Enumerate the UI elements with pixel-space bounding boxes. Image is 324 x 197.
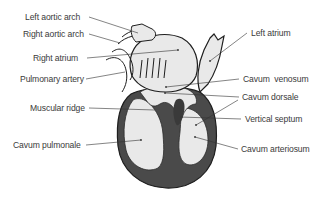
label-right-atrium: Right atrium [33,53,78,63]
atrium-body [130,35,197,92]
label-pulmonary-artery: Pulmonary artery [20,74,84,84]
label-cavum-venosum: Cavum venosum [243,74,308,84]
label-vertical-septum: Vertical septum [245,114,302,124]
aortic-arch-cap [131,24,155,42]
label-cavum-dorsale: Cavum dorsale [242,92,299,102]
label-cavum-pulmonale: Cavum pulmonale [13,140,81,150]
label-left-atrium: Left atrium [251,28,291,38]
label-muscular-ridge: Muscular ridge [30,103,85,113]
label-right-aortic-arch: Right aortic arch [23,29,84,39]
label-left-aortic-arch: Left aortic arch [25,12,80,22]
label-cavum-arteriosum: Cavum arteriosum [241,144,310,154]
